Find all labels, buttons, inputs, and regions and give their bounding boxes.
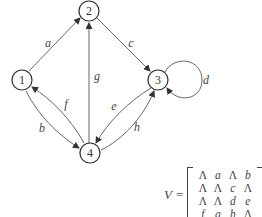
matrix-cell: Λ [195,195,210,208]
matrix-cell: Λ [195,182,210,195]
node-4: 4 [80,143,100,163]
edge-b [26,91,79,148]
matrix-cell: Λ [240,208,255,217]
edge-label-g: g [94,69,100,83]
matrix-name: V [164,187,172,203]
node-3: 3 [148,70,168,90]
svg-text:4: 4 [87,146,93,160]
edge-label-b: b [39,121,45,135]
svg-text:1: 1 [19,73,25,87]
edge-label-e: e [111,99,117,113]
edge-label-a: a [45,36,51,50]
matrix-cell: Λ [195,169,210,182]
matrix-cell: a [210,169,225,182]
edge-c [97,18,150,71]
matrix-cell: b [240,169,255,182]
svg-text:2: 2 [86,4,92,18]
matrix-cell: h [225,208,240,217]
edge-a [29,18,80,71]
adjacency-matrix: V = Λ a Λ b Λ Λ c Λ Λ Λ d e f g h Λ [164,167,262,217]
edge-label-f: f [64,97,69,111]
matrix-cell: d [225,195,240,208]
svg-text:3: 3 [155,73,161,87]
matrix-cell: Λ [225,169,240,182]
edge-h [101,91,154,150]
matrix-cell: f [195,208,210,217]
node-1: 1 [12,70,32,90]
edge-d-loop [165,61,202,98]
matrix-cell: e [240,195,255,208]
matrix-cell: Λ [240,182,255,195]
matrix-grid: Λ a Λ b Λ Λ c Λ Λ Λ d e f g h Λ [193,169,257,217]
matrix-cell: Λ [210,195,225,208]
edge-label-h: h [134,120,140,134]
matrix-cell: c [225,182,240,195]
matrix-cell: g [210,208,225,217]
edge-label-d: d [203,73,210,87]
right-bracket [257,167,262,217]
edge-label-c: c [128,36,134,50]
node-2: 2 [79,1,99,21]
matrix-cell: Λ [210,182,225,195]
equals-sign: = [176,187,183,203]
